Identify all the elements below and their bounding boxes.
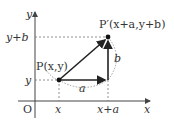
y-tick-y-plus-b: y+b (5, 31, 28, 44)
point-p-prime-label: P′(x+a,y+b) (99, 18, 165, 31)
x-axis-label: x (144, 103, 151, 116)
x-tick-x: x (55, 103, 62, 116)
point-p (57, 78, 62, 83)
y-axis-label: y (25, 8, 33, 21)
point-p-prime (106, 35, 111, 40)
x-tick-x-plus-a: x+a (97, 103, 119, 116)
translation-diagram: y x O y+b y x x+a P(x,y) P′(x+a,y+b) a b (0, 0, 174, 124)
segment-a-label: a (79, 82, 86, 95)
y-tick-y: y (24, 74, 32, 87)
origin-label: O (23, 103, 32, 116)
point-p-label: P(x,y) (36, 60, 68, 73)
segment-b-label: b (114, 52, 121, 65)
